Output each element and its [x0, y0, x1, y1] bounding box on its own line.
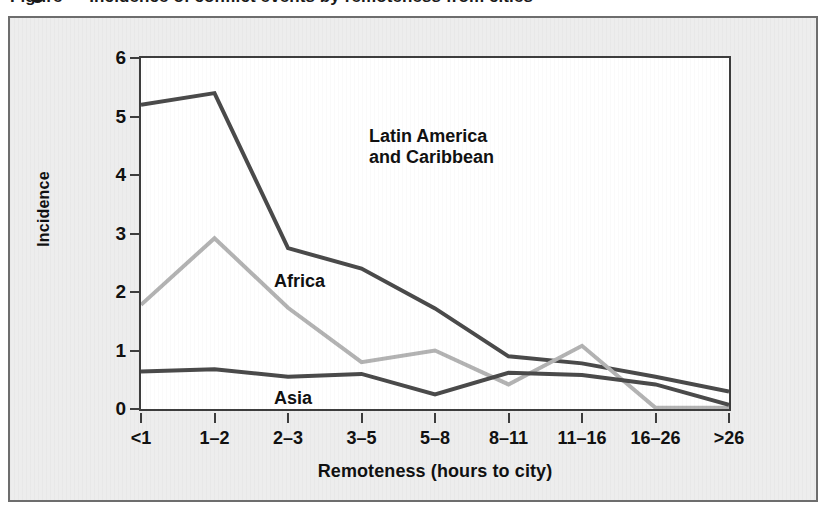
series-label-asia: Asia — [274, 388, 312, 409]
x-tick-label: >26 — [686, 429, 772, 447]
y-tick-label: 2 — [92, 282, 126, 301]
figure-title: Figure — Incidence of conflict events by… — [10, 0, 533, 7]
x-tick-mark — [581, 413, 583, 423]
x-axis-ticks: <11–22–33–55–88–1111–1616–26>26 — [10, 413, 820, 447]
x-tick-mark — [728, 413, 730, 423]
x-tick-mark — [508, 413, 510, 423]
y-tick-mark — [130, 350, 141, 352]
figure-root: Figure — Incidence of conflict events by… — [0, 0, 826, 512]
x-tick-mark — [140, 413, 142, 423]
y-tick-label: 1 — [92, 341, 126, 360]
series-label-latin-america: Latin America and Caribbean — [369, 126, 494, 168]
series-lines — [141, 58, 729, 409]
x-tick-mark — [361, 413, 363, 423]
x-tick-mark — [214, 413, 216, 423]
y-tick-mark — [130, 233, 141, 235]
x-tick-mark — [434, 413, 436, 423]
x-tick-mark — [655, 413, 657, 423]
y-tick-label: 6 — [92, 48, 126, 67]
plot-area: Latin America and Caribbean Africa Asia — [139, 56, 731, 411]
y-tick-mark — [130, 174, 141, 176]
x-tick-mark — [287, 413, 289, 423]
chart-panel: 0123456 Incidence Latin America and Cari… — [8, 16, 818, 502]
y-tick-mark — [130, 291, 141, 293]
figure-title-strip: Figure — Incidence of conflict events by… — [0, 0, 826, 14]
y-tick-label: 3 — [92, 224, 126, 243]
x-axis-title: Remoteness (hours to city) — [139, 461, 731, 482]
y-tick-label: 4 — [92, 165, 126, 184]
y-axis-title: Incidence — [35, 129, 53, 289]
series-label-africa: Africa — [274, 271, 325, 292]
y-tick-mark — [130, 116, 141, 118]
y-tick-mark — [130, 408, 141, 410]
y-tick-label: 5 — [92, 107, 126, 126]
y-tick-mark — [130, 57, 141, 59]
